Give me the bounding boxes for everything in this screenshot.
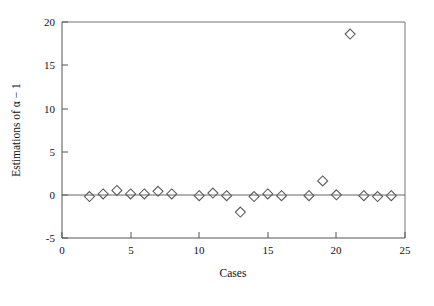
x-tick-label-20: 20 (331, 244, 343, 256)
y-tick-label-20: 20 (44, 16, 56, 28)
y-tick-label-0: 0 (50, 189, 56, 201)
data-point (345, 29, 355, 39)
data-point (373, 192, 383, 202)
axes (62, 22, 405, 238)
x-tick-labels: 0 5 10 15 20 25 (59, 244, 411, 256)
data-point (139, 189, 149, 199)
x-tick-label-0: 0 (59, 244, 65, 256)
data-point (277, 191, 287, 201)
data-point (167, 189, 177, 199)
x-tick-label-15: 15 (263, 244, 275, 256)
scatter-chart-figure: -5 0 5 10 15 20 0 5 10 15 20 25 Cases Es… (0, 0, 434, 306)
data-point-group (84, 29, 396, 217)
x-tick-label-10: 10 (194, 244, 206, 256)
x-tick-label-5: 5 (128, 244, 134, 256)
data-point (112, 185, 122, 195)
data-point (386, 191, 396, 201)
y-axis-title: Estimations of α − 1 (10, 83, 22, 177)
x-tick-label-25: 25 (400, 244, 412, 256)
y-tick-label-15: 15 (44, 59, 56, 71)
y-axis-ticks (62, 22, 68, 238)
x-axis-title: Cases (220, 267, 247, 279)
data-point (263, 189, 273, 199)
data-point (304, 191, 314, 201)
data-point (222, 191, 232, 201)
data-point (126, 189, 136, 199)
y-tick-labels: -5 0 5 10 15 20 (44, 16, 56, 244)
data-point (194, 191, 204, 201)
x-axis-ticks (62, 232, 405, 238)
data-point (318, 176, 328, 186)
plot-canvas: -5 0 5 10 15 20 0 5 10 15 20 25 Cases Es… (0, 0, 434, 306)
data-point (359, 191, 369, 201)
data-point (208, 188, 218, 198)
data-point (84, 192, 94, 202)
y-tick-label-10: 10 (44, 103, 56, 115)
plot-frame (62, 22, 405, 238)
data-point (98, 189, 108, 199)
y-tick-label-5: 5 (50, 146, 56, 158)
data-point (249, 192, 259, 202)
data-point (235, 207, 245, 217)
y-tick-label--5: -5 (46, 232, 56, 244)
